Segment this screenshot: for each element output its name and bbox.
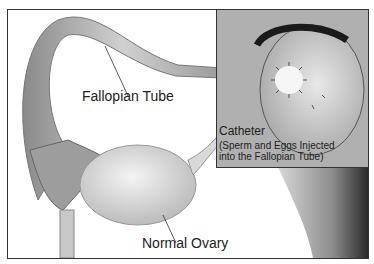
- normal-ovary-label: Normal Ovary: [142, 235, 228, 251]
- catheter-note-line2: into the Fallopian Tube): [219, 151, 335, 162]
- catheter-label: Catheter: [219, 124, 265, 138]
- fallopian-tube-label: Fallopian Tube: [82, 88, 174, 104]
- catheter-note: (Sperm and Eggs Injected into the Fallop…: [219, 140, 335, 162]
- catheter-note-line1: (Sperm and Eggs Injected: [219, 140, 335, 151]
